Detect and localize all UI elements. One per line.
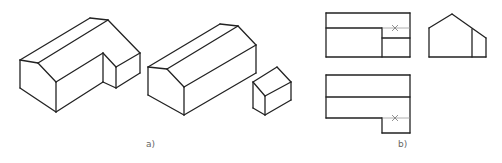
front-view [326,13,410,57]
isometric-main-body [148,24,256,115]
top-view [326,75,410,133]
top-view-outline [326,75,410,133]
isometric-l-house [20,18,140,112]
side-view [429,14,486,57]
caption-a: a) [146,139,155,149]
technical-drawing [0,0,502,163]
isometric-annex [253,67,291,115]
caption-b: b) [398,139,407,149]
front-view-outline [326,13,410,57]
